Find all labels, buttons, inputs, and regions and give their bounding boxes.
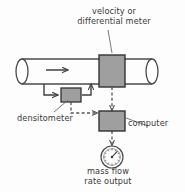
diagram-canvas: velocity or differential meter densitome…: [0, 0, 185, 192]
mass-flow-schematic: [0, 0, 185, 192]
process-pipe: [16, 59, 158, 84]
label-computer: computer: [128, 119, 184, 129]
signal-densitometer-to-computer: [71, 102, 97, 113]
label-densitometer: densitometer: [2, 114, 88, 124]
densitometer[interactable]: [61, 88, 81, 102]
label-mass-flow-rate-output: mass flow rate output: [56, 167, 160, 186]
velocity-differential-meter[interactable]: [99, 55, 125, 87]
mass-flow-rate-gauge: [101, 146, 123, 168]
label-velocity-differential-meter: velocity or differential meter: [52, 7, 176, 26]
leader-line-meter: [108, 30, 112, 53]
computer[interactable]: [99, 111, 125, 131]
